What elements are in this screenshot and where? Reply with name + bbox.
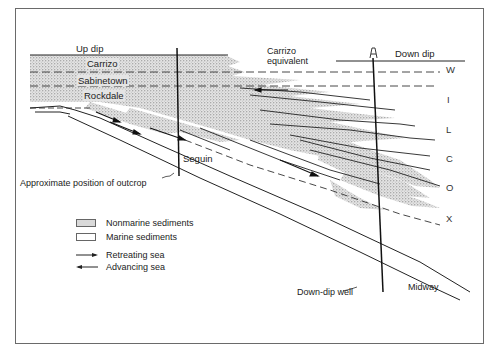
legend-advancing: Advancing sea [76,262,165,272]
legend-nonmarine: Nonmarine sediments [76,218,194,228]
legend-nonmarine-label: Nonmarine sediments [106,218,194,228]
arrow-left-icon [76,263,98,271]
midway-label: Midway [408,282,439,293]
wilcox-letter-i: I [447,94,450,105]
outcrop-label: Approximate position of outcrop [20,178,147,189]
wilcox-letter-w: W [446,64,455,75]
rockdale-label: Rockdale [83,90,125,101]
sabinetown-label: Sabinetown [77,75,129,86]
wilcox-letter-c: C [446,153,453,164]
wilcox-letter-o: O [446,182,453,193]
up-dip-label: Up dip [76,43,103,54]
marine-swatch-icon [76,233,96,241]
legend-advancing-label: Advancing sea [106,262,165,272]
legend-retreating: Retreating sea [76,250,165,260]
down-dip-label: Down dip [395,48,435,59]
derrick-icon [370,48,377,58]
wilcox-letter-l: L [446,124,451,135]
legend-marine-label: Marine sediments [106,232,177,242]
down-dip-well-label: Down-dip well [297,287,353,298]
seguin-label: Seguin [183,153,213,164]
arrow-right-icon [76,251,98,259]
carrizo-label: Carrizo [86,58,119,69]
nonmarine-swatch-icon [76,219,96,227]
carrizo-equivalent-label-line2: equivalent [267,56,308,67]
wilcox-letter-x: X [446,213,452,224]
legend-marine: Marine sediments [76,232,177,242]
legend-retreating-label: Retreating sea [106,250,165,260]
